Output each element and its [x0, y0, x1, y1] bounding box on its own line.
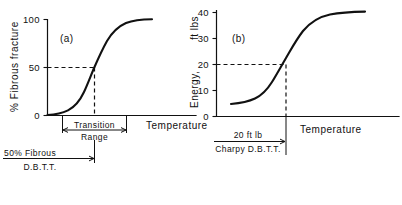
- panel-b: 40 30 20 10 0 ft lbs Energy, (b) 20 ft l…: [189, 7, 399, 155]
- panel-a-dbtt-annotation: 50% Fibrous D.B.T.T.: [3, 140, 95, 172]
- panel-a-dbtt-label-line1: 50% Fibrous: [4, 148, 56, 158]
- panel-b-y-axis-title-quantity: Energy,: [189, 71, 200, 108]
- panel-b-x-axis-title: Temperature: [300, 124, 362, 135]
- panel-b-ytick-label-0: 0: [203, 111, 209, 122]
- panel-a: 100 50 0 % Fibrous fracture (a) Transiti…: [3, 14, 208, 172]
- panel-b-charpy-dbtt-annotation: 20 ft lb Charpy D.B.T.T.: [214, 117, 286, 156]
- panel-a-transition-label-line1: Transition: [74, 120, 115, 130]
- panel-a-dbtt-label-line2: D.B.T.T.: [24, 162, 57, 172]
- panel-a-y-axis-title: % Fibrous fracture: [9, 21, 20, 112]
- panel-b-charpy-label-line1: 20 ft lb: [234, 130, 263, 140]
- panel-b-charpy-label-line2: Charpy D.B.T.T.: [215, 144, 281, 154]
- panel-a-transition-range-annotation: Transition Range: [63, 116, 127, 143]
- panel-b-y-axis-title-units: ft lbs: [189, 16, 200, 40]
- panel-b-ytick-label-20: 20: [198, 59, 209, 70]
- transition-curves-figure: 100 50 0 % Fibrous fracture (a) Transiti…: [0, 0, 402, 205]
- panel-a-label: (a): [60, 33, 73, 44]
- panel-a-ytick-label-100: 100: [23, 14, 40, 25]
- figure-container: 100 50 0 % Fibrous fracture (a) Transiti…: [0, 0, 402, 205]
- panel-b-label: (b): [232, 33, 245, 44]
- panel-a-x-axis-title: Temperature: [146, 120, 208, 131]
- panel-a-ytick-label-0: 0: [34, 110, 40, 121]
- panel-a-ytick-label-50: 50: [29, 62, 40, 73]
- panel-b-curve: [231, 12, 365, 104]
